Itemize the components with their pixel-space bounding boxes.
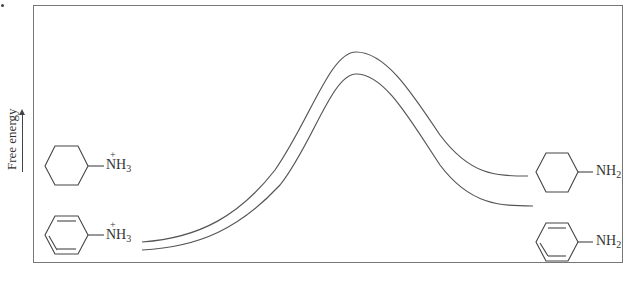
cyclohexane-ring-icon <box>536 153 593 192</box>
amine-label-left-top: NH3 <box>106 157 131 174</box>
subscript-text: 3 <box>126 163 131 174</box>
subscript-text: 2 <box>616 239 621 250</box>
cyclohexane-ring-icon <box>45 146 104 185</box>
energy-curve-phenyl <box>142 74 533 250</box>
amine-label-right-bottom: NH2 <box>596 233 621 250</box>
group-text: NH <box>596 163 616 178</box>
amine-label-left-bottom: NH3 <box>106 227 131 244</box>
benzene-ring-icon <box>536 223 593 261</box>
energy-diagram <box>0 0 629 285</box>
amine-label-right-top: NH2 <box>596 163 621 180</box>
energy-curve-cyclohexyl <box>142 52 528 242</box>
group-text: NH <box>106 227 126 242</box>
benzene-ring-icon <box>45 216 104 254</box>
subscript-text: 3 <box>126 233 131 244</box>
group-text: NH <box>596 233 616 248</box>
group-text: NH <box>106 157 126 172</box>
subscript-text: 2 <box>616 169 621 180</box>
